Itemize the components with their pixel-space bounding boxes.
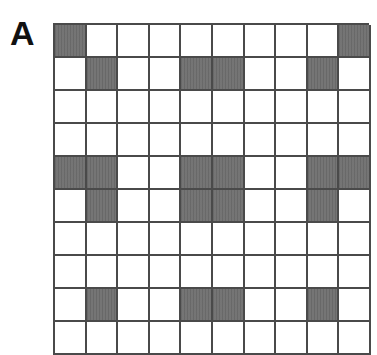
grid-cell-empty: [308, 25, 340, 58]
grid-cell-empty: [213, 124, 245, 157]
grid-cell-empty: [339, 124, 371, 157]
grid-cell-empty: [339, 256, 371, 289]
grid-cell-empty: [55, 91, 87, 124]
grid-cell-empty: [276, 91, 308, 124]
grid-cell-empty: [276, 25, 308, 58]
grid-cell-empty: [213, 91, 245, 124]
grid-cell-empty: [150, 223, 182, 256]
grid-cell-empty: [276, 289, 308, 322]
grid-cell-filled: [308, 58, 340, 91]
grid-cell-empty: [245, 190, 277, 223]
grid-cell-empty: [87, 91, 119, 124]
grid-cell-empty: [308, 223, 340, 256]
grid-cell-empty: [55, 190, 87, 223]
grid-cell-empty: [276, 223, 308, 256]
grid-cell-empty: [150, 190, 182, 223]
grid-cell-empty: [339, 289, 371, 322]
grid-cell-empty: [276, 322, 308, 355]
grid-cell-filled: [213, 157, 245, 190]
grid-cell-empty: [118, 223, 150, 256]
grid-cell-filled: [87, 157, 119, 190]
grid-cell-empty: [276, 256, 308, 289]
grid-cell-empty: [55, 58, 87, 91]
grid-cell-empty: [150, 157, 182, 190]
grid-cell-empty: [245, 289, 277, 322]
grid-cell-empty: [118, 190, 150, 223]
grid-cell-filled: [181, 157, 213, 190]
grid-cell-filled: [213, 58, 245, 91]
cell-grid: [53, 23, 369, 355]
grid-cell-empty: [55, 223, 87, 256]
grid-cell-empty: [245, 124, 277, 157]
grid-cell-filled: [308, 157, 340, 190]
grid-cell-empty: [55, 289, 87, 322]
grid-cell-empty: [181, 25, 213, 58]
grid-cell-empty: [150, 25, 182, 58]
grid-cell-filled: [181, 289, 213, 322]
grid-cell-empty: [55, 124, 87, 157]
grid-cell-empty: [181, 91, 213, 124]
grid-cell-empty: [276, 157, 308, 190]
grid-cell-empty: [213, 256, 245, 289]
grid-cell-empty: [308, 256, 340, 289]
grid-cell-empty: [118, 256, 150, 289]
grid-cell-filled: [55, 157, 87, 190]
grid-cell-empty: [87, 124, 119, 157]
grid-cell-empty: [308, 124, 340, 157]
grid-cell-empty: [245, 58, 277, 91]
grid-cell-empty: [245, 25, 277, 58]
grid-cell-empty: [55, 322, 87, 355]
grid-cell-empty: [150, 322, 182, 355]
grid-cell-empty: [118, 289, 150, 322]
grid-cell-empty: [339, 91, 371, 124]
grid-cell-empty: [150, 289, 182, 322]
grid-cell-filled: [213, 289, 245, 322]
grid-cell-empty: [245, 157, 277, 190]
grid-cell-empty: [245, 91, 277, 124]
grid-cell-filled: [308, 190, 340, 223]
grid-cell-empty: [276, 124, 308, 157]
grid-cell-filled: [87, 289, 119, 322]
grid-cell-empty: [55, 256, 87, 289]
grid-cell-filled: [339, 25, 371, 58]
grid-cell-filled: [181, 190, 213, 223]
grid-cell-empty: [339, 58, 371, 91]
grid-cell-empty: [213, 25, 245, 58]
grid-cell-filled: [87, 58, 119, 91]
panel-label: A: [10, 16, 35, 50]
grid-cell-filled: [55, 25, 87, 58]
grid-cell-empty: [118, 91, 150, 124]
grid-cell-empty: [276, 58, 308, 91]
grid-cell-empty: [87, 25, 119, 58]
grid-cell-filled: [308, 289, 340, 322]
grid-cell-empty: [213, 223, 245, 256]
grid-cell-empty: [118, 157, 150, 190]
grid-cell-empty: [245, 322, 277, 355]
grid-cell-empty: [87, 223, 119, 256]
grid-cell-empty: [308, 322, 340, 355]
grid-cell-empty: [150, 58, 182, 91]
grid-cell-empty: [245, 223, 277, 256]
grid-cell-empty: [118, 25, 150, 58]
grid-cell-empty: [339, 223, 371, 256]
grid-cell-empty: [181, 124, 213, 157]
grid-cell-empty: [181, 223, 213, 256]
grid-cell-empty: [118, 322, 150, 355]
grid-cell-empty: [213, 322, 245, 355]
grid-cell-empty: [308, 91, 340, 124]
grid-cell-empty: [276, 190, 308, 223]
grid-cell-empty: [245, 256, 277, 289]
grid-cell-empty: [181, 256, 213, 289]
grid-cell-filled: [181, 58, 213, 91]
grid-cell-empty: [87, 322, 119, 355]
grid-cell-empty: [118, 124, 150, 157]
grid-cell-filled: [339, 157, 371, 190]
grid-cell-empty: [118, 58, 150, 91]
grid-cell-empty: [181, 322, 213, 355]
grid-cell-empty: [339, 322, 371, 355]
grid-cell-empty: [87, 256, 119, 289]
grid-cell-filled: [87, 190, 119, 223]
grid-cell-empty: [150, 124, 182, 157]
grid-cell-empty: [339, 190, 371, 223]
grid-cell-filled: [213, 190, 245, 223]
